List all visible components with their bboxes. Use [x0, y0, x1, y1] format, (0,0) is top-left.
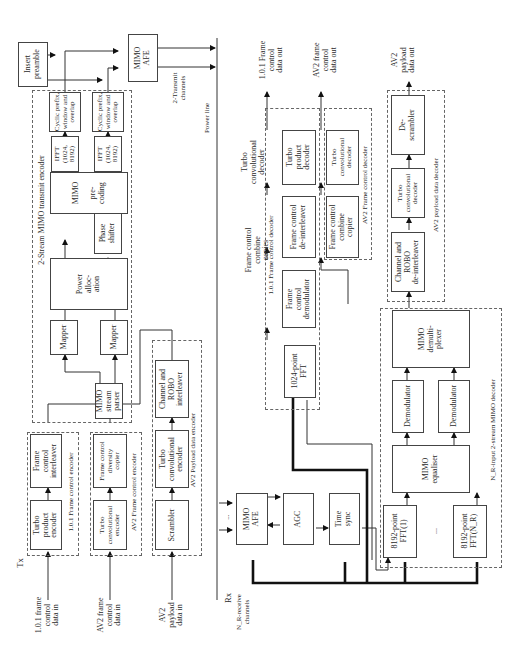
transmit-channels-label: 2-Transmit channels	[172, 73, 187, 104]
fft-8192-1-label: 8192-point FFT(1)	[391, 513, 408, 548]
av2pl-encoder-label: AV2 Payload data encoder	[190, 413, 198, 487]
fc101-encoder-label: 1.0.1 Frame control encoder	[68, 452, 76, 531]
av2fc-data-in-label: AV2 frame control data in	[97, 597, 123, 632]
rx-label: Rx	[224, 593, 233, 603]
fft-1024-label: 1024-point FFT	[291, 353, 308, 388]
turbo-product-encoder-label: Turbo product encoder	[33, 512, 59, 537]
tx-label: Tx	[16, 558, 25, 568]
av2pl-data-out-label: AV2 payload data out	[391, 47, 417, 73]
av2fc-data-out-label: AV2 frame control data out	[313, 42, 339, 77]
time-sync-label: Time sync	[335, 511, 352, 528]
descrambler-label: De- scrambler	[399, 109, 416, 141]
fc-deinterleaver-label: Frame control de-interleaver	[290, 204, 307, 249]
ifft-1-label: IFFT (1024, 8192)	[54, 145, 77, 163]
cp-window-1-label: Cyclic prefix, window and overlap	[54, 93, 77, 132]
fc-interleaver-label: Frame control interleaver	[33, 444, 59, 478]
fc101-data-out-label: 1.0.1 Frame control data out	[259, 41, 285, 79]
mimo-rx-decoder-label: N_R-input 2-stream MIMO decoder	[490, 379, 498, 481]
turbo-conv-decoder-fc-label: Turbo convolutional decoder	[331, 138, 354, 177]
fc-combine-copier-label: Frame control combine copier	[329, 204, 355, 249]
fc-diversity-copier-label: Frame control diversity copier	[99, 441, 122, 480]
fc101-data-in-label: 1.0.1 frame control data in	[35, 597, 61, 634]
power-allocation-label: Power alloc- ation	[76, 274, 102, 294]
phase-shifter-label: Phase shifter	[99, 223, 116, 243]
mimo-equaliser-label: MIMO equaliser	[422, 455, 439, 484]
demodulator-2-label: Demodulator	[450, 385, 459, 427]
scrambler-label: Scrambler	[168, 509, 177, 542]
turbo-conv-decoder-annotation: Turbo convolutional decoder	[241, 140, 267, 184]
mimo-afe-rx-label: MIMO AFE	[243, 508, 260, 531]
turbo-conv-encoder-pl-label: Turbo convolutional encoder	[159, 437, 185, 481]
mimo-tx-encoder-label: 2-Stream MIMO transmit encoder	[38, 155, 47, 265]
fc-combine-copies-annotation: Frame control combine copies	[245, 227, 271, 272]
ifft-2-label: IFFT (1024, 8192)	[97, 145, 120, 163]
mimo-afe-tx-label: MIMO AFE	[134, 47, 151, 70]
insert-preamble-label: Insert preamble	[24, 49, 41, 79]
mapper-2-label: Mapper	[110, 325, 119, 350]
channel-robo-interleaver-label: Channel and ROBO interleaver	[159, 369, 185, 409]
agc-label: AGC	[294, 511, 303, 528]
channel-robo-deinterleaver-label: Channel and ROBO de-interleaver	[395, 240, 421, 284]
av2fc-encoder-label: AV2 Frame control encoder	[131, 453, 139, 531]
turbo-conv-decoder-pl-label: Turbo convolutional decoder	[397, 174, 420, 213]
mapper-1-label: Mapper	[60, 325, 69, 350]
fft-8192-n-label: 8192-point FFT(N_R)	[461, 513, 478, 548]
demodulator-1-label: Demodulator	[404, 385, 413, 427]
av2pl-data-in-label: AV2 payload data in	[159, 602, 185, 627]
mimo-demultiplexer-label: MIMO demulti- plexer	[418, 325, 444, 352]
power-line-label: Power line	[204, 103, 212, 133]
av2pl-decoder-label: AV2 payload data decoder	[433, 158, 441, 232]
mimo-precoding-label: MIMO pre- coding	[72, 182, 107, 205]
fft-ellipsis: ...	[431, 528, 440, 534]
receive-channels-label: N_R-receive channels	[236, 594, 251, 630]
cp-window-2-label: Cyclic prefix, window and overlap	[97, 93, 120, 132]
stream-parser-label: MIMO stream parser	[96, 390, 122, 413]
av2fc-decoder-label: AV2 Frame control decoder	[362, 146, 370, 224]
turbo-conv-encoder-fc-label: Turbo convolutional encoder	[99, 506, 122, 545]
turbo-product-decoder-label: Turbo product decoder	[286, 144, 312, 169]
rx-ellipsis: ...	[224, 514, 232, 519]
fc-demodulator-label: Frame control demodulator	[286, 279, 312, 319]
